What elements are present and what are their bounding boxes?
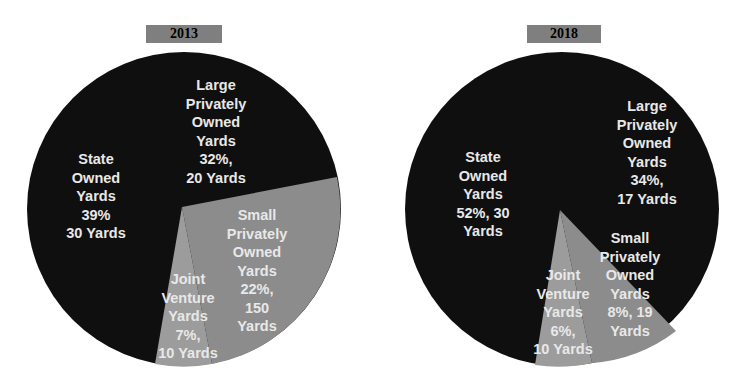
label-large-private-2018: Large Privately Owned Yards 34%, 17 Yard… [617, 97, 677, 208]
pie-chart-2013: 2013 State Owned Yards 39% 30 Yards Larg… [0, 0, 370, 389]
chart-title-2018: 2018 [527, 25, 601, 43]
label-joint-venture-2018: Joint Venture Yards 6%, 10 Yards [533, 266, 592, 359]
chart-title-2013: 2013 [146, 25, 222, 43]
label-state-owned-2018: State Owned Yards 52%, 30 Yards [456, 148, 509, 241]
label-small-private-2018: Small Privately Owned Yards 8%, 19 Yards [600, 229, 660, 340]
label-large-private-2013: Large Privately Owned Yards 32%, 20 Yard… [186, 76, 246, 187]
pie-chart-2018: 2018 State Owned Yards 52%, 30 Yards Lar… [370, 0, 741, 389]
label-joint-venture-2013: Joint Venture Yards 7%, 10 Yards [158, 270, 217, 363]
label-small-private-2013: Small Privately Owned Yards 22%, 150 Yar… [227, 206, 287, 336]
label-state-owned-2013: State Owned Yards 39% 30 Yards [66, 150, 125, 243]
